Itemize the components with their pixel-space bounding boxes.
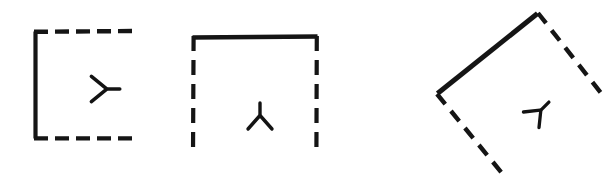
figure-canvas xyxy=(0,0,615,175)
square-right-edge-lower-left xyxy=(437,94,506,175)
square-left xyxy=(34,31,133,139)
square-middle-edge-left xyxy=(193,36,194,156)
square-right-edge-upper-left xyxy=(438,14,538,94)
square-middle-y-marker xyxy=(248,103,272,129)
square-right-edge-upper-right xyxy=(538,13,601,93)
square-right-y-marker xyxy=(523,94,556,127)
square-left-y-marker xyxy=(91,76,119,101)
square-middle-edge-top xyxy=(193,37,318,38)
square-left-edge-top xyxy=(34,31,133,32)
square-right-rotated xyxy=(437,13,601,175)
figure-root: Three partially-drawn squares with orien… xyxy=(0,0,615,175)
square-middle xyxy=(193,36,318,156)
